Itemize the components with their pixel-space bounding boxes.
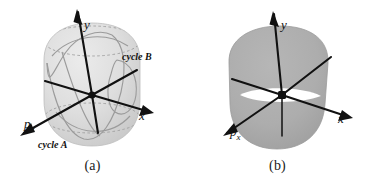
- annotation-cycle-a: cycle A: [38, 140, 67, 150]
- caption-panel-b: (b): [185, 158, 370, 174]
- axis-label-px-a: px: [24, 117, 35, 134]
- panel-a: y x px cycle B cycle A (a): [0, 0, 185, 191]
- origin-point-a: [88, 91, 95, 98]
- figure-container: y x px cycle B cycle A (a): [0, 0, 370, 191]
- axis-label-px-b: px: [230, 125, 241, 142]
- caption-panel-a: (a): [0, 158, 185, 174]
- axis-label-y-a: y: [84, 18, 90, 31]
- axis-label-px-sub-a: x: [31, 124, 35, 134]
- surface-body-b: [229, 26, 328, 149]
- axis-label-x-a: x: [139, 109, 145, 122]
- axis-label-y-b: y: [281, 18, 287, 31]
- panel-b: y x px (b): [185, 0, 370, 191]
- axis-label-x-b: x: [338, 112, 344, 125]
- axis-label-px-sub-b: x: [237, 132, 241, 142]
- annotation-cycle-b: cycle B: [122, 52, 152, 62]
- origin-point-b: [278, 91, 286, 99]
